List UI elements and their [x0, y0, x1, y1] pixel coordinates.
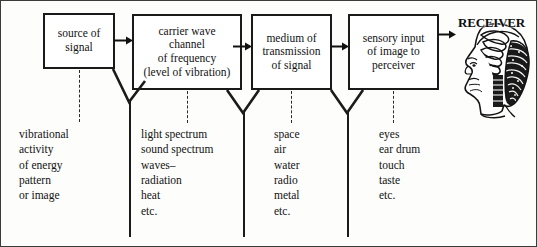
box-sensory-line-2: of image to	[367, 45, 419, 59]
list-item: or image	[19, 188, 69, 203]
list-item: eyes	[379, 127, 420, 142]
box-source-of-signal: source of signal	[43, 13, 115, 69]
box-source-line-1: source of	[58, 27, 100, 41]
box-source-line-2: signal	[65, 41, 92, 55]
box-carrier-line-3: of frequency	[158, 52, 216, 66]
dashed-line-source	[79, 70, 80, 122]
column-medium-examples: space air water radio metal etc.	[274, 127, 300, 219]
box-carrier-line-4: (level of vibration)	[144, 66, 231, 80]
list-item: sound spectrum	[141, 142, 214, 157]
column-sensory-examples: eyes ear drum touch taste etc.	[379, 127, 420, 204]
dashed-line-medium	[291, 91, 292, 123]
list-item: waves–	[141, 158, 214, 173]
list-item: vibrational	[19, 127, 69, 142]
box-medium-line-3: of signal	[272, 59, 312, 73]
box-medium-line-2: transmission	[262, 45, 320, 59]
arrow-source-to-carrier	[114, 35, 133, 46]
box-carrier-wave-channel: carrier wave channel of frequency (level…	[132, 14, 242, 90]
stem-divider-2	[243, 112, 245, 237]
receiver-label: RECEIVER	[458, 15, 525, 31]
list-item: ear drum	[379, 142, 420, 157]
dashed-line-carrier	[187, 91, 188, 123]
box-sensory-line-1: sensory input	[363, 32, 425, 46]
box-medium-line-1: medium of	[266, 32, 316, 46]
list-item: air	[274, 142, 300, 157]
box-sensory-line-3: perceiver	[372, 59, 415, 73]
list-item: heat	[141, 188, 214, 203]
list-item: metal	[274, 188, 300, 203]
dashed-line-sensory	[393, 91, 394, 123]
list-item: space	[274, 127, 300, 142]
box-carrier-line-1: carrier wave	[158, 25, 215, 39]
list-item: light spectrum	[141, 127, 214, 142]
list-item: radiation	[141, 173, 214, 188]
box-carrier-line-2: channel	[169, 38, 205, 52]
list-item: water	[274, 158, 300, 173]
list-item: activity	[19, 142, 69, 157]
list-item: etc.	[379, 188, 420, 203]
stem-divider-3	[347, 112, 349, 237]
diagram-figure: source of signal carrier wave channel of…	[0, 0, 537, 247]
list-item: of energy	[19, 158, 69, 173]
column-source-examples: vibrational activity of energy pattern o…	[19, 127, 69, 204]
stem-divider-1	[129, 101, 131, 237]
list-item: etc.	[274, 204, 300, 219]
box-sensory-input: sensory input of image to perceiver	[348, 14, 439, 90]
list-item: etc.	[141, 204, 214, 219]
box-medium-of-transmission: medium of transmission of signal	[251, 14, 332, 90]
column-carrier-examples: light spectrum sound spectrum waves– rad…	[141, 127, 214, 219]
list-item: touch	[379, 158, 420, 173]
arrow-carrier-to-medium	[233, 41, 252, 52]
list-item: taste	[379, 173, 420, 188]
arrow-medium-to-sensory	[331, 41, 349, 52]
list-item: radio	[274, 173, 300, 188]
list-item: pattern	[19, 173, 69, 188]
